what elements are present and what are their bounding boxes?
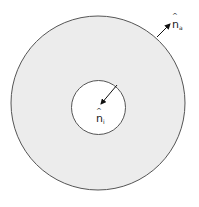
outer-normal-arrow [157, 24, 170, 37]
svg-text:n: n [172, 18, 179, 31]
annulus-diagram: ^ n a ^ n i [0, 0, 199, 207]
svg-text:n: n [96, 112, 103, 125]
outer-normal-label: ^ n a [172, 12, 183, 31]
svg-text:a: a [179, 24, 183, 31]
